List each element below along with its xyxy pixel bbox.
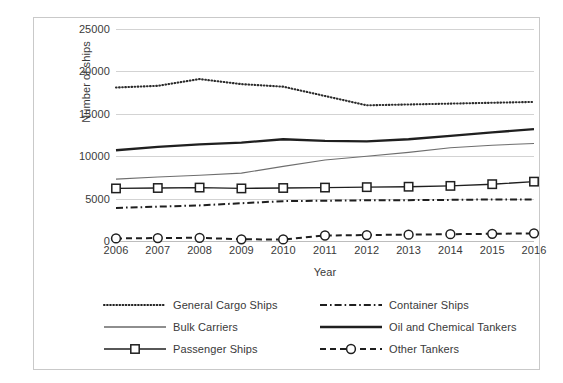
series-passenger-ships (112, 177, 538, 192)
legend-item-oil-and-chemical-tankers[interactable]: Oil and Chemical Tankers (320, 317, 517, 337)
data-point-marker (237, 184, 245, 192)
data-point-marker (362, 231, 371, 240)
legend-label: Bulk Carriers (173, 321, 238, 333)
data-point-marker (321, 183, 329, 191)
data-point-marker (404, 230, 413, 239)
series-line (116, 143, 534, 179)
legend-label: Container Ships (389, 299, 469, 311)
data-point-marker (279, 235, 288, 244)
x-axis-title: Year (116, 266, 534, 278)
y-axis-tick-labels: 0500010000150002000025000 (54, 18, 110, 250)
legend-item-general-cargo-ships[interactable]: General Cargo Ships (104, 295, 278, 315)
plot-block: Number of ships 050001000015000200002500… (34, 18, 541, 250)
y-axis-tick-0: 0 (56, 235, 110, 247)
data-point-marker (154, 184, 162, 192)
legend-label: Oil and Chemical Tankers (389, 321, 517, 333)
x-axis-tick-2009: 2009 (229, 244, 254, 256)
data-point-marker (237, 235, 246, 244)
x-axis-tick-2008: 2008 (187, 244, 212, 256)
data-point-marker (363, 183, 371, 191)
legend-item-other-tankers[interactable]: Other Tankers (320, 339, 459, 359)
data-point-marker (530, 229, 539, 238)
data-point-marker (195, 233, 204, 242)
data-point-marker (153, 234, 162, 243)
series-bulk-carriers (116, 143, 534, 179)
plot-area (116, 29, 534, 241)
legend-item-passenger-ships[interactable]: Passenger Ships (104, 339, 258, 359)
x-axis-tick-2012: 2012 (354, 244, 379, 256)
x-axis-line (116, 241, 534, 242)
y-axis-tick-25000: 25000 (56, 23, 110, 35)
legend-item-container-ships[interactable]: Container Ships (320, 295, 469, 315)
legend-swatch-icon (320, 298, 382, 312)
data-point-marker (446, 182, 454, 190)
data-point-marker (530, 177, 538, 185)
legend-swatch-icon (104, 320, 166, 334)
data-point-marker (488, 180, 496, 188)
x-axis-tick-2010: 2010 (271, 244, 296, 256)
chart-legend: General Cargo ShipsContainer ShipsBulk C… (56, 295, 526, 361)
x-axis-tick-2016: 2016 (522, 244, 547, 256)
x-axis-tick-labels: 2006200720082009201020112012201320142015… (116, 244, 534, 264)
series-oil-and-chemical-tankers (116, 129, 534, 150)
data-point-marker (112, 184, 120, 192)
series-line (116, 79, 534, 105)
x-axis-tick-2013: 2013 (396, 244, 421, 256)
legend-item-bulk-carriers[interactable]: Bulk Carriers (104, 317, 238, 337)
data-point-marker (488, 229, 497, 238)
y-axis-tick-10000: 10000 (56, 150, 110, 162)
x-axis-tick-2014: 2014 (438, 244, 463, 256)
x-axis-tick-2007: 2007 (145, 244, 170, 256)
x-axis-tick-2006: 2006 (104, 244, 129, 256)
data-point-marker (279, 184, 287, 192)
legend-swatch-icon (320, 320, 382, 334)
data-point-marker (195, 183, 203, 191)
series-general-cargo-ships (116, 79, 534, 105)
legend-label: Other Tankers (389, 343, 459, 355)
y-axis-tick-5000: 5000 (56, 193, 110, 205)
series-line (116, 129, 534, 150)
chart-frame: Number of ships 050001000015000200002500… (33, 17, 540, 370)
series-line (116, 199, 534, 207)
data-point-marker (112, 234, 121, 243)
data-point-marker (404, 183, 412, 191)
legend-swatch-icon (104, 298, 166, 312)
series-container-ships (116, 199, 534, 207)
legend-swatch-icon (320, 342, 382, 356)
x-axis-tick-2015: 2015 (480, 244, 505, 256)
series-layer (116, 29, 534, 241)
y-axis-tick-15000: 15000 (56, 108, 110, 120)
y-axis-tick-20000: 20000 (56, 65, 110, 77)
x-axis-tick-2011: 2011 (313, 244, 337, 256)
legend-label: General Cargo Ships (173, 299, 278, 311)
legend-label: Passenger Ships (173, 343, 258, 355)
data-point-marker (446, 230, 455, 239)
legend-swatch-icon (104, 342, 166, 356)
data-point-marker (321, 231, 330, 240)
